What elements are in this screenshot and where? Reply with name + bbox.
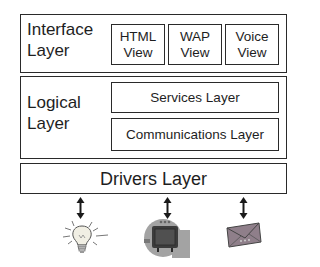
television-icon xyxy=(142,218,192,258)
drivers-layer-box: Drivers Layer xyxy=(20,163,287,194)
voice-view-label: Voice View xyxy=(235,29,268,61)
bidirectional-arrow-icon xyxy=(239,197,248,219)
drivers-layer-label: Drivers Layer xyxy=(100,171,207,187)
envelope-icon xyxy=(226,222,262,248)
services-layer-label: Services Layer xyxy=(150,90,239,106)
voice-view-box: Voice View xyxy=(225,24,279,65)
communications-layer-box: Communications Layer xyxy=(111,118,279,151)
wap-view-box: WAP View xyxy=(168,24,222,65)
lightbulb-icon xyxy=(60,218,110,256)
logical-layer-label: Logical Layer xyxy=(27,92,81,134)
html-view-box: HTML View xyxy=(111,24,165,65)
wap-view-label: WAP View xyxy=(180,29,210,61)
bidirectional-arrow-icon xyxy=(163,197,172,219)
bidirectional-arrow-icon xyxy=(76,197,85,219)
services-layer-box: Services Layer xyxy=(111,82,279,113)
interface-layer-label: Interface Layer xyxy=(27,19,93,61)
communications-layer-label: Communications Layer xyxy=(126,127,264,143)
html-view-label: HTML View xyxy=(120,29,157,61)
